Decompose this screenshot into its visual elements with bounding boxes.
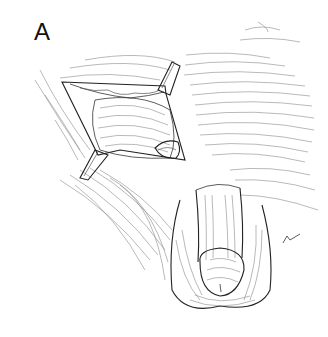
- retractor-lower: [80, 150, 108, 180]
- retractor-upper: [158, 62, 180, 95]
- scrotum: [171, 200, 271, 308]
- penis: [196, 184, 244, 296]
- surgical-illustration: [0, 0, 328, 337]
- skin-hatching-upper: [60, 22, 318, 210]
- hair-tuft: [283, 234, 300, 243]
